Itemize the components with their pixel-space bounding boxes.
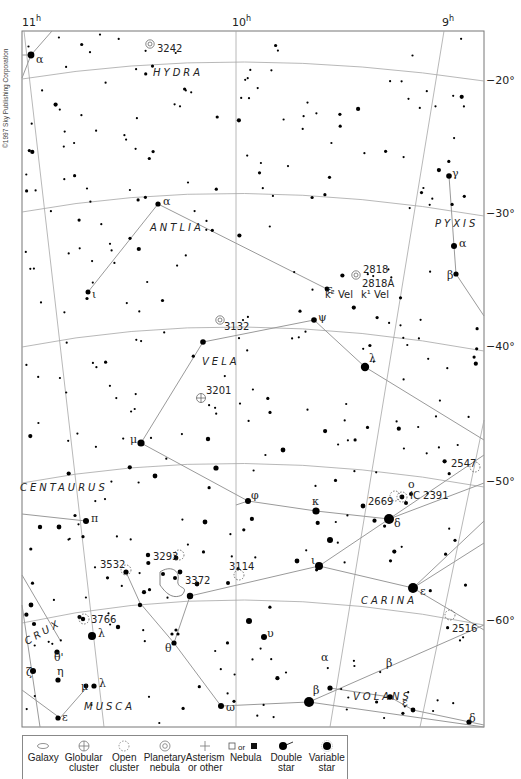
star	[473, 356, 476, 359]
star	[463, 105, 465, 107]
star	[190, 91, 192, 93]
star	[34, 695, 36, 697]
star	[277, 50, 279, 52]
star-label: μ	[81, 680, 88, 693]
star	[315, 568, 318, 571]
star	[258, 171, 261, 174]
star	[311, 317, 317, 323]
star	[25, 173, 27, 175]
star	[155, 201, 160, 206]
star	[181, 519, 183, 521]
star	[123, 134, 125, 136]
dso-label: 2818	[363, 264, 388, 275]
star	[31, 582, 34, 585]
star	[86, 290, 91, 295]
star	[281, 448, 286, 453]
star	[73, 514, 76, 517]
star	[135, 339, 137, 341]
star-chart: 324228182818A3132320125472669IC 23913293…	[0, 0, 521, 779]
star	[37, 422, 39, 424]
star	[446, 173, 452, 179]
star	[25, 251, 27, 253]
star	[29, 603, 34, 608]
star	[291, 337, 293, 339]
star	[399, 296, 402, 299]
nebula-icon: or	[228, 739, 264, 753]
star	[166, 597, 168, 599]
star	[79, 247, 81, 249]
star	[403, 156, 405, 158]
star	[251, 658, 253, 660]
star-label: ω	[226, 701, 235, 714]
star-label: α	[36, 53, 44, 66]
star	[185, 254, 187, 256]
star	[248, 420, 250, 422]
star	[118, 38, 120, 40]
star-label: θ'	[54, 651, 64, 664]
star	[383, 717, 385, 719]
star-label: θ	[165, 642, 172, 655]
star	[347, 696, 349, 698]
ra-label: 11h	[22, 14, 41, 29]
planetary-nebula-icon	[158, 739, 172, 753]
star	[306, 102, 308, 104]
constellation-name: ANTLIA	[149, 222, 204, 233]
star	[448, 472, 451, 475]
star	[275, 676, 279, 680]
star	[187, 181, 189, 183]
star	[83, 518, 89, 524]
star-label: λ	[99, 677, 106, 690]
star	[136, 117, 138, 119]
star	[354, 438, 357, 441]
star	[287, 165, 289, 167]
star	[28, 52, 35, 59]
star	[111, 249, 113, 251]
constellation-name: MUSCA	[84, 701, 135, 712]
star	[80, 43, 83, 46]
star	[226, 581, 230, 585]
star	[125, 139, 127, 141]
legend-label-line2: star	[278, 763, 295, 773]
star-label: π	[91, 512, 98, 525]
star	[81, 535, 84, 538]
star-label: λ	[369, 352, 376, 365]
star	[237, 118, 241, 122]
star	[28, 149, 31, 152]
star	[248, 97, 250, 99]
star	[65, 66, 67, 68]
star	[312, 507, 319, 514]
star	[208, 404, 210, 406]
star	[257, 87, 259, 89]
star	[438, 446, 440, 448]
star	[220, 668, 222, 670]
star	[361, 504, 366, 509]
star	[239, 403, 241, 405]
star	[389, 559, 392, 562]
star	[226, 641, 229, 644]
star	[295, 559, 300, 564]
star	[86, 187, 88, 189]
star	[344, 561, 346, 563]
star	[264, 454, 266, 456]
star	[85, 297, 88, 300]
star	[78, 219, 81, 222]
ra-label: 9h	[442, 14, 454, 29]
star	[66, 342, 68, 344]
star	[346, 708, 348, 710]
star	[148, 696, 150, 698]
star	[198, 685, 201, 688]
star	[144, 72, 147, 75]
star	[362, 348, 364, 350]
star	[165, 458, 167, 460]
star	[401, 80, 403, 82]
star	[437, 699, 439, 701]
star	[69, 538, 71, 540]
star	[215, 413, 217, 415]
star	[77, 615, 81, 619]
galaxy-icon	[36, 739, 50, 753]
star	[476, 327, 479, 330]
dso-label: 3201	[206, 385, 231, 396]
star	[334, 479, 337, 482]
star	[65, 391, 67, 393]
star	[29, 268, 31, 270]
